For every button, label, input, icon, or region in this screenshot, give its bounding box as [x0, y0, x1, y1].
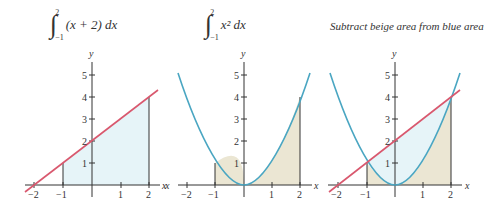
- plots-canvas: −2−112 12345 x y −2−112 12345 x x y: [0, 0, 492, 209]
- plot-linear: −2−112 12345 x y: [25, 48, 167, 200]
- svg-text:3: 3: [385, 114, 390, 125]
- svg-text:y: y: [88, 48, 94, 59]
- svg-text:−1: −1: [360, 189, 371, 200]
- svg-text:1: 1: [385, 158, 390, 169]
- svg-text:2: 2: [234, 136, 239, 147]
- svg-text:−2: −2: [28, 189, 39, 200]
- svg-text:5: 5: [82, 70, 87, 81]
- svg-text:x: x: [313, 180, 319, 191]
- svg-text:2: 2: [146, 189, 151, 200]
- svg-text:2: 2: [297, 189, 302, 200]
- svg-text:4: 4: [234, 92, 239, 103]
- svg-text:y: y: [240, 48, 246, 59]
- svg-text:1: 1: [82, 158, 87, 169]
- svg-text:−2: −2: [181, 189, 192, 200]
- svg-text:y: y: [391, 48, 397, 59]
- svg-text:x: x: [164, 180, 170, 191]
- svg-text:3: 3: [82, 114, 87, 125]
- blue-area: [63, 97, 149, 185]
- svg-text:1: 1: [234, 158, 239, 169]
- svg-text:−2: −2: [331, 189, 342, 200]
- svg-text:1: 1: [118, 189, 123, 200]
- svg-text:−1: −1: [56, 189, 67, 200]
- svg-text:x: x: [464, 180, 470, 191]
- svg-text:2: 2: [448, 189, 453, 200]
- svg-text:2: 2: [385, 136, 390, 147]
- svg-text:−1: −1: [208, 189, 219, 200]
- svg-text:4: 4: [82, 92, 87, 103]
- svg-text:5: 5: [234, 70, 239, 81]
- svg-text:2: 2: [82, 136, 87, 147]
- svg-text:1: 1: [420, 189, 425, 200]
- plot-quadratic: −2−112 12345 x x y: [164, 48, 319, 200]
- plot-combined: −2−112 12345 x y: [328, 48, 470, 200]
- svg-text:3: 3: [234, 114, 239, 125]
- svg-text:5: 5: [385, 70, 390, 81]
- svg-text:1: 1: [269, 189, 274, 200]
- svg-text:4: 4: [385, 92, 390, 103]
